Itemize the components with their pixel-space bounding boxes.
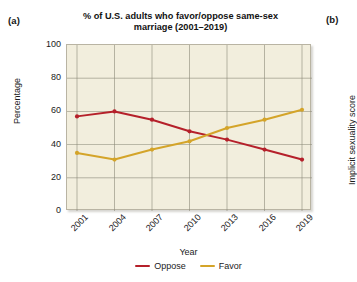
- series-line-favor: [77, 110, 302, 160]
- data-point-favor-2004: [112, 157, 116, 161]
- x-tick-2001: 2001: [69, 212, 90, 233]
- legend-label-oppose: Oppose: [154, 261, 186, 271]
- y-tick-0: 0: [56, 205, 61, 215]
- data-point-oppose-2004: [112, 109, 116, 113]
- data-point-favor-2010: [187, 139, 191, 143]
- y-tick-60: 60: [51, 105, 61, 115]
- x-axis-tick-labels: 2001200420072010201320162019: [66, 212, 311, 246]
- data-point-favor-2013: [225, 126, 229, 130]
- x-tick-2010: 2010: [181, 212, 202, 233]
- panel-label-a: (a): [8, 15, 20, 26]
- y-tick-40: 40: [51, 139, 61, 149]
- chart-legend: OpposeFavor: [66, 261, 311, 271]
- panel-b-axis-title: Implicit sexuality score: [347, 60, 357, 220]
- chart-title: % of U.S. adults who favor/oppose same-s…: [58, 11, 303, 34]
- x-axis-title: Year: [66, 247, 311, 257]
- x-tick-2007: 2007: [144, 212, 165, 233]
- x-tick-2019: 2019: [294, 212, 315, 233]
- panel-label-b: (b): [326, 14, 338, 25]
- plot-wrapper: [66, 44, 311, 210]
- legend-item-favor: Favor: [200, 261, 242, 271]
- data-point-oppose-2001: [75, 114, 79, 118]
- y-axis-tick-labels: 020406080100: [24, 44, 61, 210]
- y-tick-20: 20: [51, 172, 61, 182]
- x-tick-2013: 2013: [219, 212, 240, 233]
- data-point-oppose-2007: [150, 118, 154, 122]
- data-point-favor-2019: [300, 108, 304, 112]
- chart-title-line-1: % of U.S. adults who favor/oppose same-s…: [83, 11, 278, 21]
- plot-area: [66, 44, 311, 210]
- y-tick-80: 80: [51, 72, 61, 82]
- data-point-oppose-2013: [225, 138, 229, 142]
- data-point-favor-2016: [262, 118, 266, 122]
- x-tick-2004: 2004: [106, 212, 127, 233]
- data-point-favor-2001: [75, 151, 79, 155]
- y-tick-100: 100: [46, 39, 61, 49]
- chart-title-line-2: marriage (2001–2019): [134, 22, 227, 32]
- data-point-oppose-2010: [187, 129, 191, 133]
- data-point-oppose-2016: [262, 147, 266, 151]
- legend-item-oppose: Oppose: [135, 261, 186, 271]
- x-tick-2016: 2016: [256, 212, 277, 233]
- legend-swatch-oppose: [135, 265, 150, 268]
- data-series-layer: [67, 45, 312, 211]
- legend-label-favor: Favor: [219, 261, 242, 271]
- y-axis-title: Percentage: [12, 56, 22, 146]
- data-point-favor-2007: [150, 147, 154, 151]
- legend-swatch-favor: [200, 265, 215, 268]
- data-point-oppose-2019: [300, 157, 304, 161]
